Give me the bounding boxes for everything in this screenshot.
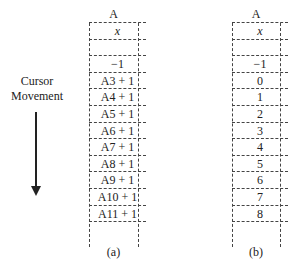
column-caption: (a) <box>89 245 138 260</box>
cursor-label-line1: Cursor <box>8 74 66 89</box>
right-gridline <box>138 23 139 247</box>
arrow-shaft <box>35 112 37 188</box>
left-gridline <box>232 23 233 247</box>
column-caption: (b) <box>232 245 280 260</box>
right-gridline <box>280 23 281 247</box>
column-header: A <box>232 7 280 22</box>
column-header: A <box>89 7 138 22</box>
left-gridline <box>89 23 90 247</box>
arrow-head-icon <box>31 186 41 196</box>
cursor-movement-label: Cursor Movement <box>8 74 66 104</box>
cursor-label-line2: Movement <box>8 89 66 104</box>
